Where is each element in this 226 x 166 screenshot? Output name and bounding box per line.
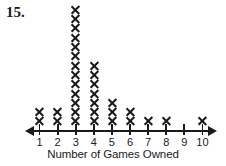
x-mark-icon bbox=[70, 24, 81, 33]
axis-tick-label-6: 6 bbox=[120, 136, 140, 148]
x-mark-icon bbox=[88, 107, 99, 116]
axis-tick-label-2: 2 bbox=[48, 136, 68, 148]
x-mark-icon bbox=[70, 117, 81, 126]
dot-column-8 bbox=[159, 117, 173, 126]
dot-column-2 bbox=[51, 107, 65, 126]
x-mark-icon bbox=[70, 80, 81, 89]
axis-tick-9 bbox=[183, 124, 185, 135]
x-mark-icon bbox=[70, 5, 81, 14]
axis-tick-label-7: 7 bbox=[138, 136, 158, 148]
x-mark-icon bbox=[143, 117, 154, 126]
arrow-right-icon bbox=[208, 126, 217, 136]
axis-tick-label-3: 3 bbox=[66, 136, 86, 148]
x-mark-icon bbox=[161, 117, 172, 126]
x-mark-icon bbox=[197, 117, 208, 126]
axis-tick-label-1: 1 bbox=[30, 136, 50, 148]
dot-plot-canvas: 12345678910 bbox=[0, 0, 226, 166]
dot-plot-figure: 15. 12345678910 Number of Games Owned bbox=[0, 0, 226, 166]
x-mark-icon bbox=[88, 98, 99, 107]
x-mark-icon bbox=[70, 14, 81, 23]
axis-tick-label-9: 9 bbox=[174, 136, 194, 148]
axis-tick-label-4: 4 bbox=[84, 136, 104, 148]
axis-title: Number of Games Owned bbox=[0, 148, 226, 160]
x-mark-icon bbox=[70, 33, 81, 42]
x-mark-icon bbox=[52, 117, 63, 126]
x-mark-icon bbox=[70, 70, 81, 79]
axis-tick-label-8: 8 bbox=[156, 136, 176, 148]
dot-column-5 bbox=[105, 98, 119, 126]
x-mark-icon bbox=[88, 117, 99, 126]
x-mark-icon bbox=[70, 52, 81, 61]
axis-tick-label-10: 10 bbox=[192, 136, 212, 148]
dot-column-6 bbox=[123, 107, 137, 126]
axis-tick-label-5: 5 bbox=[102, 136, 122, 148]
x-mark-icon bbox=[70, 98, 81, 107]
x-mark-icon bbox=[70, 89, 81, 98]
arrow-left-icon bbox=[25, 126, 34, 136]
x-mark-icon bbox=[106, 107, 117, 116]
x-mark-icon bbox=[125, 107, 136, 116]
x-mark-icon bbox=[88, 70, 99, 79]
x-mark-icon bbox=[70, 61, 81, 70]
x-mark-icon bbox=[52, 107, 63, 116]
x-mark-icon bbox=[34, 107, 45, 116]
dot-column-7 bbox=[141, 117, 155, 126]
x-mark-icon bbox=[70, 42, 81, 51]
x-mark-icon bbox=[125, 117, 136, 126]
dot-column-4 bbox=[87, 61, 101, 126]
x-mark-icon bbox=[106, 98, 117, 107]
x-mark-icon bbox=[34, 117, 45, 126]
dot-column-10 bbox=[195, 117, 209, 126]
x-mark-icon bbox=[106, 117, 117, 126]
dot-column-1 bbox=[33, 107, 47, 126]
x-mark-icon bbox=[88, 80, 99, 89]
x-mark-icon bbox=[70, 107, 81, 116]
x-mark-icon bbox=[88, 89, 99, 98]
x-mark-icon bbox=[88, 61, 99, 70]
dot-column-3 bbox=[69, 5, 83, 126]
